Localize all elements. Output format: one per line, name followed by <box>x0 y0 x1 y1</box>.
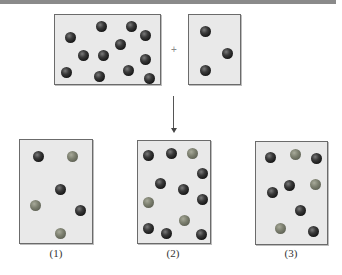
dark-sphere-icon <box>126 21 137 32</box>
dark-sphere-icon <box>166 148 177 159</box>
dark-sphere-icon <box>140 30 151 41</box>
light-sphere-icon <box>55 228 66 239</box>
dark-sphere-icon <box>197 168 208 179</box>
dark-sphere-icon <box>61 67 72 78</box>
light-sphere-icon <box>67 151 78 162</box>
dark-sphere-icon <box>295 205 306 216</box>
dark-sphere-icon <box>78 50 89 61</box>
dark-sphere-icon <box>143 150 154 161</box>
dark-sphere-icon <box>115 39 126 50</box>
light-sphere-icon <box>30 200 41 211</box>
dark-sphere-icon <box>144 73 155 84</box>
dark-sphere-icon <box>311 153 322 164</box>
light-sphere-icon <box>187 148 198 159</box>
dark-sphere-icon <box>178 184 189 195</box>
product-box-2 <box>137 140 211 244</box>
top-rule <box>0 0 336 4</box>
dark-sphere-icon <box>33 151 44 162</box>
reaction-arrow-head-icon <box>171 128 177 133</box>
product-label-1: (1) <box>50 247 63 259</box>
dark-sphere-icon <box>140 54 151 65</box>
dark-sphere-icon <box>55 184 66 195</box>
product-box-1 <box>19 139 93 244</box>
reaction-arrow-shaft <box>173 96 174 129</box>
light-sphere-icon <box>275 223 286 234</box>
dark-sphere-icon <box>267 187 278 198</box>
dark-sphere-icon <box>75 205 86 216</box>
product-label-3: (3) <box>285 247 298 259</box>
reactant-box-b <box>188 14 241 85</box>
dark-sphere-icon <box>143 223 154 234</box>
dark-sphere-icon <box>96 21 107 32</box>
light-sphere-icon <box>290 149 301 160</box>
dark-sphere-icon <box>308 226 319 237</box>
dark-sphere-icon <box>284 180 295 191</box>
product-box-3 <box>255 141 328 245</box>
product-label-2: (2) <box>167 247 180 259</box>
dark-sphere-icon <box>155 178 166 189</box>
dark-sphere-icon <box>200 65 211 76</box>
dark-sphere-icon <box>161 228 172 239</box>
dark-sphere-icon <box>65 32 76 43</box>
dark-sphere-icon <box>197 194 208 205</box>
dark-sphere-icon <box>196 229 207 240</box>
dark-sphere-icon <box>94 71 105 82</box>
light-sphere-icon <box>310 179 321 190</box>
dark-sphere-icon <box>200 26 211 37</box>
light-sphere-icon <box>179 215 190 226</box>
reactant-box-a <box>54 14 161 85</box>
dark-sphere-icon <box>123 65 134 76</box>
dark-sphere-icon <box>98 50 109 61</box>
plus-sign: + <box>171 44 177 55</box>
dark-sphere-icon <box>222 48 233 59</box>
dark-sphere-icon <box>265 152 276 163</box>
light-sphere-icon <box>143 197 154 208</box>
